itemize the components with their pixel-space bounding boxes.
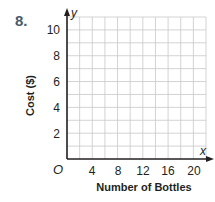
x-axis-name: x [200, 144, 206, 158]
y-tick-label: 4 [40, 101, 60, 115]
y-tick-label: 2 [40, 127, 60, 141]
x-tick-label: 12 [131, 164, 155, 178]
x-tick-label: 8 [106, 164, 130, 178]
grid-lines [67, 17, 206, 159]
x-axis-label: Number of Bottles [64, 181, 215, 193]
y-tick-label: 10 [40, 23, 60, 37]
y-axis-arrow-icon [64, 8, 70, 16]
x-tick-label: 16 [156, 164, 180, 178]
y-axis-label: Cost ($) [24, 75, 36, 116]
y-tick-label: 6 [40, 75, 60, 89]
x-tick-label: 20 [182, 164, 206, 178]
x-axis-arrow-icon [206, 156, 214, 162]
origin-label: O [53, 162, 63, 177]
x-tick-label: 4 [80, 164, 104, 178]
y-tick-label: 8 [40, 49, 60, 63]
y-axis-name: y [71, 6, 77, 20]
